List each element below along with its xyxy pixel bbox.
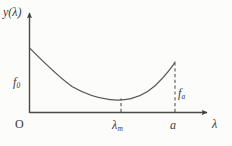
- lambda-m-label: λm: [112, 119, 123, 131]
- f-zero-symbol: f: [13, 75, 16, 89]
- curve-y-lambda: [30, 48, 175, 100]
- x-axis-label: λ: [212, 118, 217, 130]
- lambda-m-subscript: m: [117, 124, 122, 133]
- f-zero-label: f0: [13, 76, 20, 88]
- f-a-symbol: f: [178, 86, 181, 100]
- f-a-label: fa: [178, 87, 185, 99]
- a-point-label: a: [170, 119, 176, 131]
- y-axis-label: y(λ): [3, 6, 22, 18]
- origin-label: O: [15, 118, 24, 130]
- f-zero-subscript: 0: [17, 81, 21, 90]
- figure-canvas: y(λ) f0 fa O λm a λ: [0, 0, 232, 146]
- f-a-subscript: a: [182, 92, 186, 101]
